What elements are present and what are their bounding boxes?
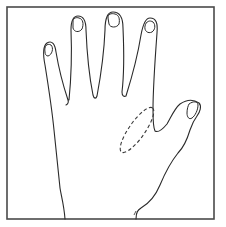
hand-illustration xyxy=(0,0,226,227)
frame-border xyxy=(7,7,214,219)
hand-drawing-svg xyxy=(0,0,226,227)
